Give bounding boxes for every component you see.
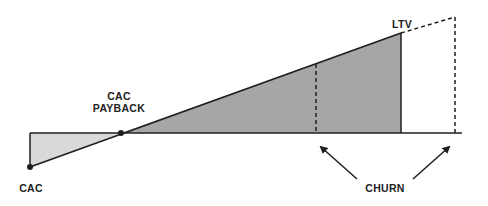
cac-label: CAC: [17, 182, 45, 194]
ltv-cac-diagram: [0, 0, 488, 206]
cac-point: [27, 164, 33, 170]
payback-point: [118, 130, 124, 136]
cac-payback-label-line1: CAC: [85, 90, 153, 102]
churn-arrow-right: [413, 147, 449, 179]
ltv-label: LTV: [388, 18, 416, 30]
churn-label: CHURN: [360, 182, 410, 194]
churn-arrow-left: [321, 147, 357, 179]
cac-payback-label-line2: PAYBACK: [85, 102, 153, 114]
cac-payback-label: CAC PAYBACK: [85, 90, 153, 114]
